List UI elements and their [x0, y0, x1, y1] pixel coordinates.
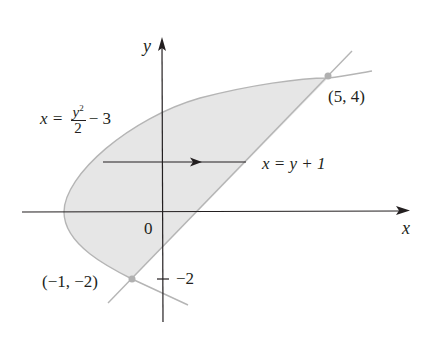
- parabola-fraction: y22: [71, 104, 86, 136]
- y-axis-label: y: [143, 37, 151, 55]
- tick-label-y: −2: [176, 270, 194, 287]
- point-5-4: [325, 73, 332, 80]
- x-axis-label: x: [402, 219, 410, 237]
- fraction-denominator: 2: [71, 121, 86, 136]
- origin-label: 0: [144, 220, 153, 237]
- point-label-minus1-minus2: (−1, −2): [42, 273, 98, 290]
- parabola-equation: x = y22− 3: [40, 104, 111, 136]
- parabola-eq-lhs: x =: [40, 109, 68, 128]
- fraction-exponent: 2: [79, 103, 84, 113]
- point-label-5-4: (5, 4): [328, 88, 365, 105]
- point-minus1-minus2: [129, 276, 136, 283]
- parabola-eq-tail: − 3: [89, 109, 111, 128]
- y-axis: [162, 45, 163, 322]
- line-equation: x = y + 1: [262, 155, 326, 172]
